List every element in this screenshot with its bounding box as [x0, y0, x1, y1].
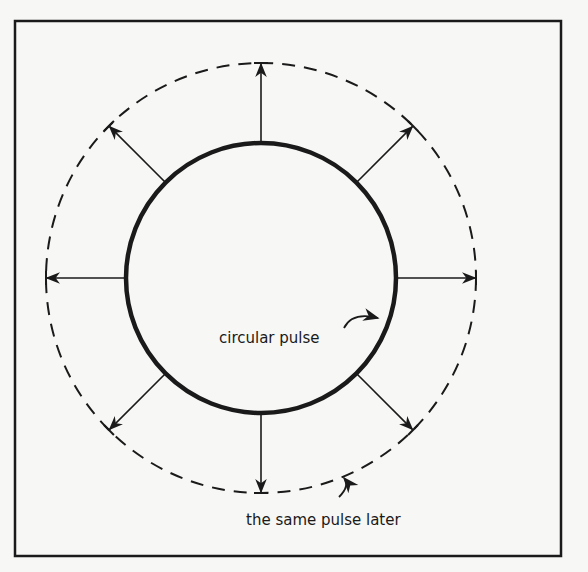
- propagation-arrows: [47, 64, 475, 492]
- propagation-arrow-icon: [110, 127, 166, 183]
- circular-pulse-pointer-icon: [344, 316, 378, 328]
- diagram-frame: [15, 21, 561, 556]
- propagation-arrow-icon: [110, 373, 166, 429]
- later-pulse-pointer-icon: [339, 478, 346, 497]
- wave-pulse-diagram: circular pulse the same pulse later: [0, 0, 588, 572]
- later-pulse-label: the same pulse later: [246, 511, 401, 529]
- circular-pulse-label: circular pulse: [219, 329, 320, 347]
- propagation-arrow-icon: [356, 127, 412, 183]
- circular-pulse-circle: [126, 143, 396, 413]
- propagation-arrow-icon: [356, 373, 412, 429]
